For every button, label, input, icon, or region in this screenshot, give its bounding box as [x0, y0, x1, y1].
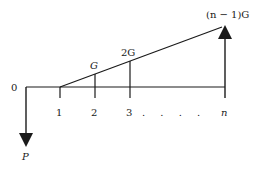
initial-flow-label: P — [21, 151, 29, 162]
gradient-slope-line — [60, 27, 222, 87]
cash-flow-diagram: 0 P 1 2 3 . . . . n G 2G (n − 1)G — [0, 0, 257, 169]
period-label-2: 2 — [91, 107, 97, 118]
gradient-label-G: G — [90, 60, 98, 71]
down-arrow-icon — [19, 133, 33, 147]
ellipsis: . . . . — [142, 107, 206, 118]
period-label-1: 1 — [56, 107, 62, 118]
origin-label: 0 — [11, 82, 17, 93]
gradient-label-2G: 2G — [121, 47, 135, 58]
period-label-n: n — [221, 107, 227, 118]
period-label-3: 3 — [126, 107, 132, 118]
final-flow-label: (n − 1)G — [206, 9, 249, 20]
